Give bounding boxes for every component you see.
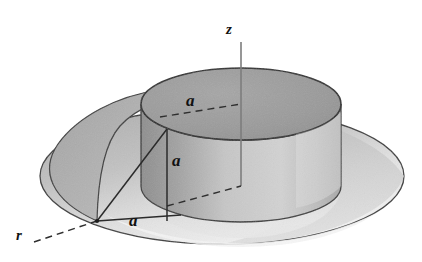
r-axis-label: r [16,228,22,243]
top-radius-label: a [186,92,195,109]
geometry-illustration [0,0,422,262]
z-axis-label: z [226,22,232,37]
base-radius-label: a [129,212,138,229]
cylinder-height-label: a [172,152,181,169]
origin-vertex-point [95,219,99,223]
r-axis-line [34,221,97,242]
figure-container: z a a a r [0,0,422,262]
